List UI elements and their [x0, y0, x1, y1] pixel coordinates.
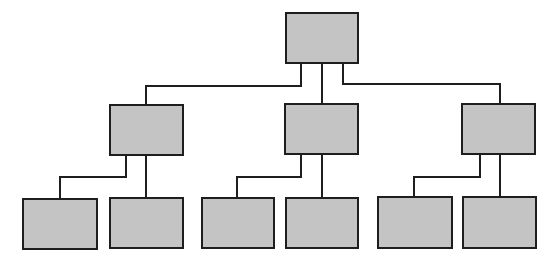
node-box-mid-center — [285, 104, 358, 154]
connector-root-to-mid-left — [146, 63, 301, 105]
connector-mid-center-to-leaf-3 — [237, 154, 301, 198]
node-box-leaf-4 — [286, 198, 358, 248]
node-box-leaf-6 — [463, 197, 536, 248]
node-box-leaf-5 — [378, 197, 452, 248]
node-box-leaf-2 — [110, 198, 183, 248]
node-box-leaf-1 — [23, 199, 97, 249]
org-chart-diagram — [0, 0, 558, 263]
node-box-mid-left — [110, 105, 183, 155]
node-box-leaf-3 — [202, 198, 274, 248]
connector-mid-right-to-leaf-5 — [414, 154, 480, 197]
node-box-mid-right — [462, 104, 535, 154]
connector-mid-left-to-leaf-1 — [60, 155, 126, 199]
node-boxes — [23, 13, 536, 249]
connector-root-to-mid-right — [343, 63, 500, 104]
node-box-root — [286, 13, 358, 63]
